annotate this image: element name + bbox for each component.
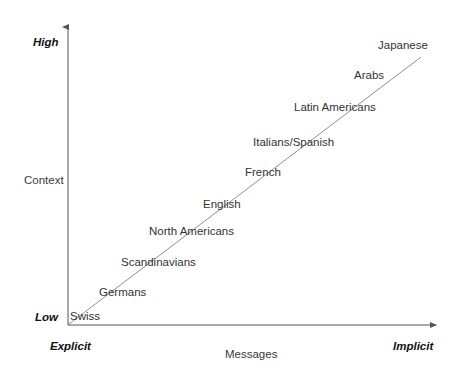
data-point-label-germans: Germans [99, 287, 146, 299]
axis-label-explicit: Explicit [50, 341, 91, 353]
data-point-label-italians-spanish: Italians/Spanish [253, 137, 334, 149]
data-point-label-french: French [245, 167, 281, 179]
axis-label-implicit: Implicit [393, 341, 433, 353]
data-point-label-swiss: Swiss [70, 311, 100, 323]
context-culture-diagram: High Context Low Explicit Messages Impli… [0, 0, 469, 378]
data-point-label-japanese: Japanese [378, 40, 428, 52]
trend-line [69, 57, 421, 324]
axis-label-low: Low [35, 312, 58, 324]
data-point-label-latin-americans: Latin Americans [294, 102, 376, 114]
axis-title-messages: Messages [225, 349, 277, 361]
data-point-label-english: English [203, 199, 241, 211]
axis-label-high: High [33, 37, 59, 49]
data-point-label-scandinavians: Scandinavians [121, 257, 196, 269]
data-point-label-arabs: Arabs [354, 70, 384, 82]
axis-title-context: Context [24, 175, 64, 187]
data-point-label-north-americans: North Americans [149, 226, 234, 238]
